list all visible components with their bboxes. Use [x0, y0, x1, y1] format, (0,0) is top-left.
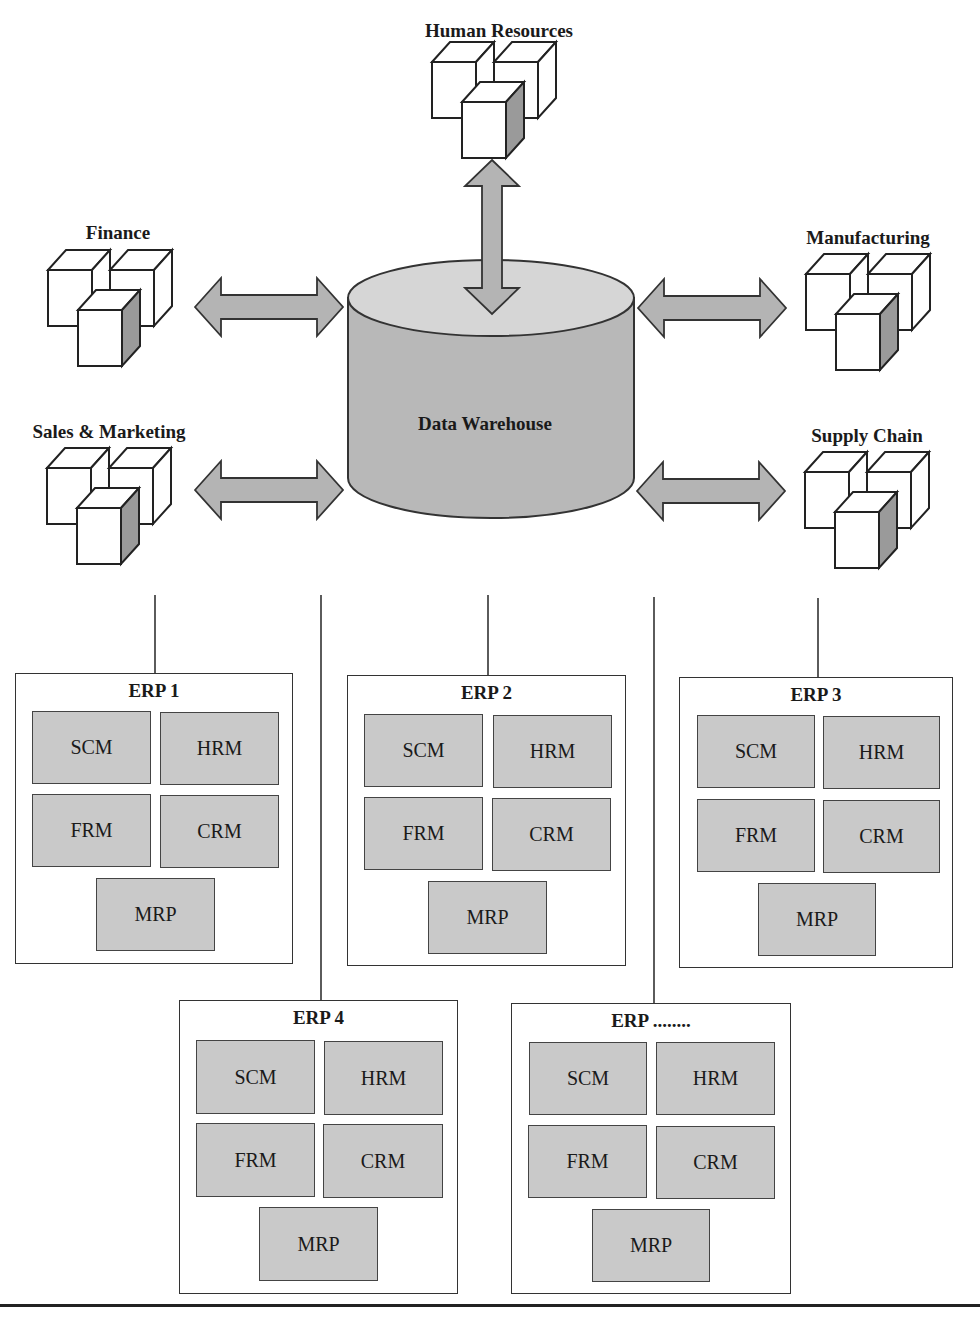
module-crm: CRM [656, 1126, 775, 1199]
bottom-divider [0, 1304, 980, 1307]
erp-system-3: ERP 3 SCM HRM FRM CRM MRP [679, 677, 953, 968]
module-mrp: MRP [428, 881, 547, 954]
department-label-sales-marketing: Sales & Marketing [32, 421, 185, 443]
module-frm: FRM [697, 799, 815, 872]
erp-system-2: ERP 2 SCM HRM FRM CRM MRP [347, 675, 626, 966]
bidirectional-arrow-human-resources [465, 160, 519, 314]
cubes-icon-sales-marketing [47, 448, 171, 564]
module-crm: CRM [323, 1124, 443, 1198]
bidirectional-arrow-finance [195, 278, 343, 336]
cubes-icon-supply-chain [805, 452, 929, 568]
bidirectional-arrow-manufacturing [638, 279, 786, 337]
data-warehouse-label: Data Warehouse [418, 413, 552, 435]
erp-system-4: ERP 4 SCM HRM FRM CRM MRP [179, 1000, 458, 1294]
module-mrp: MRP [592, 1209, 710, 1282]
department-label-human-resources: Human Resources [425, 20, 573, 42]
module-crm: CRM [492, 798, 611, 871]
module-scm: SCM [364, 714, 483, 787]
module-mrp: MRP [758, 883, 876, 956]
module-frm: FRM [196, 1123, 315, 1197]
erp-title: ERP 4 [180, 1007, 457, 1029]
bidirectional-arrow-sales-marketing [195, 461, 343, 519]
module-mrp: MRP [259, 1207, 378, 1281]
module-scm: SCM [32, 711, 151, 784]
department-label-finance: Finance [86, 222, 150, 244]
erp-system-1: ERP 1 SCM HRM FRM CRM MRP [15, 673, 293, 964]
cubes-icon-finance [48, 250, 172, 366]
erp-title: ERP ........ [512, 1010, 790, 1032]
module-crm: CRM [823, 800, 940, 873]
module-scm: SCM [196, 1040, 315, 1114]
module-frm: FRM [528, 1125, 647, 1198]
department-label-supply-chain: Supply Chain [811, 425, 922, 447]
module-hrm: HRM [823, 716, 940, 789]
module-hrm: HRM [493, 715, 612, 788]
module-mrp: MRP [96, 878, 215, 951]
module-hrm: HRM [656, 1042, 775, 1115]
erp-title: ERP 1 [16, 680, 292, 702]
module-frm: FRM [32, 794, 151, 867]
department-label-manufacturing: Manufacturing [806, 227, 930, 249]
erp-system-more: ERP ........ SCM HRM FRM CRM MRP [511, 1003, 791, 1294]
module-hrm: HRM [160, 712, 279, 785]
erp-title: ERP 2 [348, 682, 625, 704]
module-hrm: HRM [324, 1041, 443, 1115]
erp-title: ERP 3 [680, 684, 952, 706]
module-frm: FRM [364, 797, 483, 870]
module-scm: SCM [697, 715, 815, 788]
module-crm: CRM [160, 795, 279, 868]
cubes-icon-manufacturing [806, 254, 930, 370]
module-scm: SCM [529, 1042, 647, 1115]
bidirectional-arrow-supply-chain [637, 462, 785, 520]
diagram-canvas [0, 0, 980, 1323]
cubes-icon-human-resources [432, 42, 556, 158]
